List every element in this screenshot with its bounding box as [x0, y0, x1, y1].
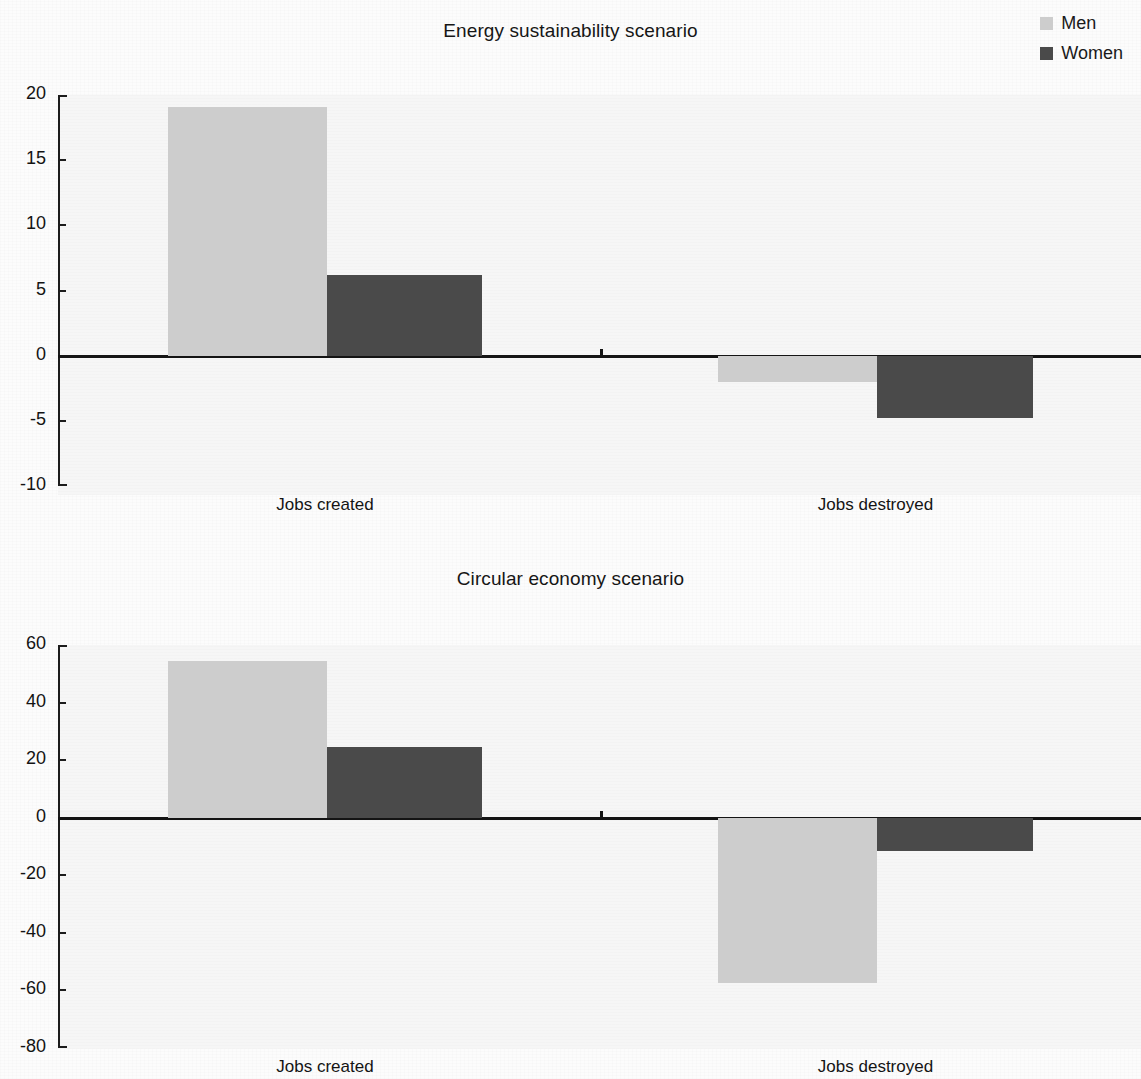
y-axis-tick	[58, 759, 66, 761]
bar-men-jobs-destroyed	[718, 356, 877, 382]
y-axis-tick-label: -60	[0, 978, 46, 999]
y-axis-bottom-cap	[58, 484, 67, 486]
y-axis-tick	[58, 159, 66, 161]
y-axis-tick-label: 10	[0, 213, 46, 234]
y-axis-tick-label: -20	[0, 863, 46, 884]
x-axis-category-label: Jobs destroyed	[718, 1057, 1033, 1077]
y-axis-tick-label: -10	[0, 474, 46, 495]
category-separator-tick	[600, 349, 603, 356]
bar-women-jobs-destroyed	[877, 356, 1033, 419]
bar-women-jobs-destroyed	[877, 818, 1033, 851]
y-axis-bottom-cap	[58, 1046, 67, 1048]
legend-label-women: Women	[1061, 38, 1123, 68]
y-axis-tick-label: 0	[0, 344, 46, 365]
x-axis-category-label: Jobs destroyed	[718, 495, 1033, 515]
x-axis-category-label: Jobs created	[168, 495, 482, 515]
y-axis-tick	[58, 290, 66, 292]
x-axis-category-label: Jobs created	[168, 1057, 482, 1077]
chart-1-title: Energy sustainability scenario	[0, 20, 1141, 42]
y-axis-tick-label: 20	[0, 748, 46, 769]
bar-women-jobs-created	[327, 747, 482, 818]
bar-men-jobs-created	[168, 107, 327, 356]
y-axis-line	[58, 645, 60, 1048]
y-axis-tick-label: 5	[0, 279, 46, 300]
y-axis-tick	[58, 224, 66, 226]
y-axis-tick-label: -40	[0, 921, 46, 942]
y-axis-tick	[58, 702, 66, 704]
y-axis-tick	[58, 874, 66, 876]
y-axis-tick-label: 60	[0, 633, 46, 654]
bar-men-jobs-destroyed	[718, 818, 877, 984]
y-axis-tick	[58, 932, 66, 934]
y-axis-tick	[58, 420, 66, 422]
chart-circular-economy: 6040200-20-40-60-80Jobs createdJobs dest…	[0, 645, 1141, 1049]
category-separator-tick	[600, 811, 603, 818]
y-axis-tick-label: 15	[0, 148, 46, 169]
y-axis-tick-label: -5	[0, 409, 46, 430]
y-axis-top-cap	[58, 95, 67, 97]
y-axis-tick-label: 20	[0, 83, 46, 104]
bar-men-jobs-created	[168, 661, 327, 818]
chart-2-title: Circular economy scenario	[0, 568, 1141, 590]
bar-women-jobs-created	[327, 275, 482, 356]
legend-swatch-women	[1040, 47, 1053, 60]
y-axis-tick	[58, 989, 66, 991]
y-axis-tick-label: -80	[0, 1036, 46, 1057]
y-axis-tick-label: 0	[0, 806, 46, 827]
y-axis-tick-label: 40	[0, 691, 46, 712]
legend-item-women: Women	[1040, 38, 1123, 68]
y-axis-top-cap	[58, 645, 67, 647]
chart-energy-sustainability: 20151050-5-10Jobs createdJobs destroyed	[0, 95, 1141, 495]
